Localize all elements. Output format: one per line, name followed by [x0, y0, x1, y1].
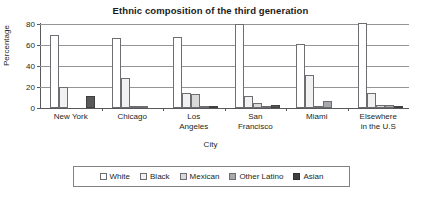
bar-group [112, 23, 157, 108]
bar [244, 96, 253, 108]
legend-swatch-icon [293, 173, 300, 180]
bar-group-bars [50, 23, 95, 108]
bar [262, 106, 271, 108]
chart-title: Ethnic composition of the third generati… [0, 5, 421, 16]
plot-area: 020406080 [40, 23, 409, 109]
bar [50, 35, 59, 109]
y-tick-label: 40 [26, 62, 35, 71]
bar-group [235, 23, 280, 108]
chart-figure: Ethnic composition of the third generati… [0, 0, 421, 203]
x-axis-category-label-line: New York [40, 112, 102, 122]
legend-swatch-icon [100, 173, 107, 180]
legend-swatch-icon [229, 173, 236, 180]
bar [173, 37, 182, 108]
bar [253, 103, 262, 108]
x-axis-category-label: New York [40, 112, 102, 122]
x-axis-category-label-line: Elsewhere [348, 112, 410, 122]
x-axis-category-label: Miami [286, 112, 348, 122]
y-tick-mark [37, 45, 40, 46]
gridline [40, 66, 409, 67]
bar [235, 24, 244, 108]
legend-item-label: Black [150, 172, 170, 181]
y-tick-label: 0 [31, 104, 35, 113]
legend-item[interactable]: Black [140, 172, 170, 181]
y-tick-mark [37, 24, 40, 25]
y-tick-label: 80 [26, 20, 35, 29]
y-tick-mark [37, 66, 40, 67]
x-axis-category-label: LosAngeles [163, 112, 225, 132]
x-group-tick [348, 108, 349, 111]
x-axis-label: City [0, 140, 421, 149]
bar [358, 23, 367, 108]
bar [305, 75, 314, 108]
bar [296, 44, 305, 108]
x-axis-category-label-line: Los [163, 112, 225, 122]
bar [314, 106, 323, 108]
legend-item-label: Other Latino [239, 172, 283, 181]
x-axis-category-label-line: San [225, 112, 287, 122]
x-axis-category-label: Chicago [102, 112, 164, 122]
bar [130, 106, 139, 108]
bar-group [50, 23, 95, 108]
bar-group-bars [235, 23, 280, 108]
legend-item[interactable]: White [100, 172, 130, 181]
bar [59, 87, 68, 108]
bar [394, 106, 403, 108]
legend-swatch-icon [180, 173, 187, 180]
x-group-tick [102, 108, 103, 111]
bar-group-bars [112, 23, 157, 108]
gridline [40, 24, 409, 25]
bar [139, 106, 148, 108]
y-tick-mark [37, 108, 40, 109]
y-tick-label: 20 [26, 83, 35, 92]
bar [323, 101, 332, 108]
x-axis-category-label-line: in the U.S [348, 122, 410, 132]
legend-item[interactable]: Other Latino [229, 172, 283, 181]
x-group-tick [286, 108, 287, 111]
bar-group-bars [296, 23, 341, 108]
bar [200, 106, 209, 108]
x-axis-category-label-line: Chicago [102, 112, 164, 122]
bar [209, 106, 218, 108]
bar-group [173, 23, 218, 108]
bar [191, 94, 200, 108]
bar-group [296, 23, 341, 108]
bar [271, 105, 280, 108]
legend-swatch-icon [140, 173, 147, 180]
bar [121, 78, 130, 108]
legend-item[interactable]: Mexican [180, 172, 220, 181]
bar-group [358, 23, 403, 108]
gridline [40, 87, 409, 88]
chart-legend: WhiteBlackMexicanOther LatinoAsian [73, 166, 350, 187]
x-group-tick [225, 108, 226, 111]
x-axis-category-label-line: Francisco [225, 122, 287, 132]
bar [376, 105, 385, 108]
bar [182, 93, 191, 108]
x-axis-category-label: SanFrancisco [225, 112, 287, 132]
y-tick-mark [37, 87, 40, 88]
bar-group-bars [358, 23, 403, 108]
x-axis-category-label: Elsewherein the U.S [348, 112, 410, 132]
legend-item[interactable]: Asian [293, 172, 323, 181]
bar [112, 38, 121, 108]
bar-group-bars [173, 23, 218, 108]
bar [385, 105, 394, 108]
x-axis-category-label-line: Miami [286, 112, 348, 122]
gridline [40, 45, 409, 46]
bar [367, 93, 376, 108]
legend-item-label: White [110, 172, 130, 181]
legend-item-label: Asian [303, 172, 323, 181]
y-axis-label: Percentage [2, 25, 11, 66]
bar [86, 96, 95, 108]
x-axis-category-label-line: Angeles [163, 122, 225, 132]
y-tick-label: 60 [26, 41, 35, 50]
x-group-tick [163, 108, 164, 111]
legend-item-label: Mexican [190, 172, 220, 181]
